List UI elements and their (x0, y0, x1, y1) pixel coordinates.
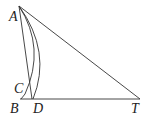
label-T: T (131, 102, 139, 116)
label-B: B (10, 102, 19, 116)
label-C: C (14, 82, 23, 96)
geometry-diagram: A C B D T (0, 0, 151, 121)
label-D: D (33, 102, 43, 116)
label-A: A (9, 10, 18, 24)
diagram-canvas (0, 0, 151, 121)
